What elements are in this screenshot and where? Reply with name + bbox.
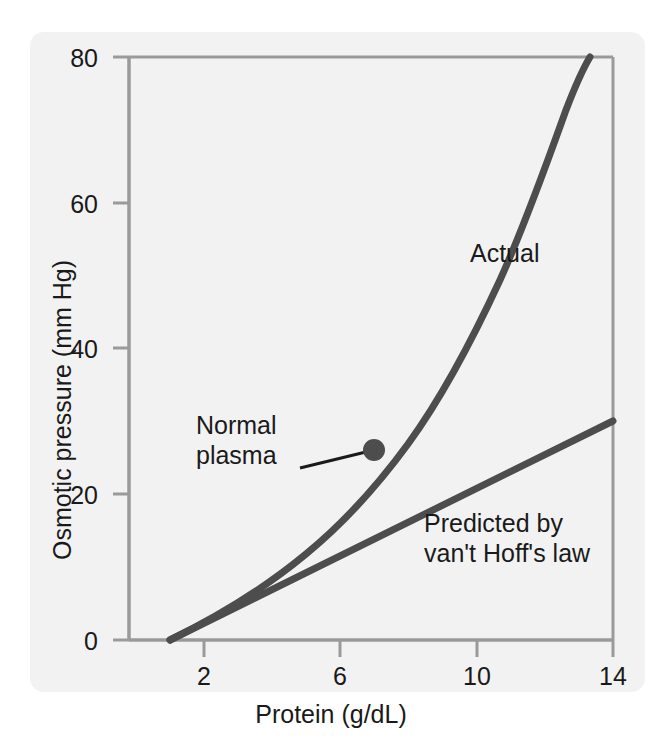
series-label-vant-hoff: Predicted by van't Hoff's law	[424, 508, 590, 568]
y-tick-label-80: 80	[30, 44, 98, 73]
y-tick-label-0: 0	[30, 627, 98, 656]
x-tick-label-14: 14	[583, 662, 643, 691]
x-tick-label-6: 6	[310, 662, 370, 691]
y-axis-ticks	[113, 57, 129, 640]
annotation-normal-plasma: Normal plasma	[196, 410, 277, 470]
normal-plasma-leader-line	[300, 451, 370, 468]
x-axis-ticks	[204, 640, 613, 657]
x-tick-label-10: 10	[447, 662, 507, 691]
series-label-actual: Actual	[470, 238, 539, 268]
x-tick-label-2: 2	[174, 662, 234, 691]
plot-canvas	[0, 0, 662, 747]
y-tick-label-60: 60	[30, 190, 98, 219]
normal-plasma-marker	[363, 439, 385, 461]
osmotic-pressure-figure: 80 60 40 20 0 2 6 10 14 Osmotic pressure…	[0, 0, 662, 747]
x-axis-title: Protein (g/dL)	[0, 700, 662, 729]
y-axis-title: Osmotic pressure (mm Hg)	[48, 260, 77, 560]
